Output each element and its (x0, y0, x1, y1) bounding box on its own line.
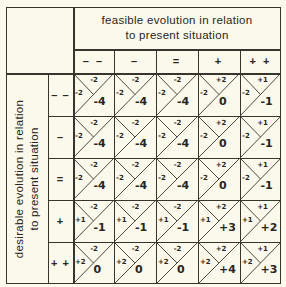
combined-score: -4 (94, 95, 106, 108)
matrix-cell: -2 +1 -1 (73, 200, 114, 242)
matrix-cell: -2 +2 0 (156, 242, 198, 284)
matrix-cell: -2 -2 -4 (73, 116, 114, 158)
column-header: = (156, 49, 198, 73)
row-header: + + (48, 242, 73, 284)
desirable-score: -2 (158, 89, 166, 97)
combined-score: -4 (135, 179, 147, 192)
desirable-score: +1 (75, 216, 86, 224)
feasible-score: -2 (90, 245, 98, 253)
desirable-score: -2 (116, 89, 124, 97)
matrix-cell: +1 +2 +3 (240, 242, 281, 284)
row-header: – (48, 116, 73, 158)
row-title-line-2: to present situation (27, 99, 42, 257)
desirable-score: -2 (158, 132, 166, 140)
desirable-score: +2 (158, 258, 169, 266)
matrix-cell: +2 +1 +3 (198, 200, 240, 242)
combined-score: -1 (177, 221, 189, 234)
desirable-score: -2 (200, 174, 208, 182)
matrix-cell: +1 -2 -1 (240, 73, 281, 116)
matrix-cell: +1 -2 -1 (240, 116, 281, 158)
matrix-cell: +2 +2 +4 (198, 242, 240, 284)
matrix-cell: -2 +1 -1 (156, 200, 198, 242)
feasible-score: -2 (174, 245, 182, 253)
matrix-cell: -2 -2 -4 (114, 116, 156, 158)
desirable-score: +2 (242, 258, 253, 266)
desirable-score: +2 (200, 258, 211, 266)
combined-score: 0 (94, 263, 102, 276)
feasible-score: -2 (132, 161, 140, 169)
combined-score: -1 (261, 179, 273, 192)
combined-score: 0 (177, 263, 185, 276)
desirable-score: -2 (116, 174, 124, 182)
column-header: + (198, 49, 240, 73)
matrix-cell: -2 -2 -4 (156, 116, 198, 158)
matrix-cell: +2 -2 0 (198, 158, 240, 200)
feasible-score: +1 (257, 245, 268, 253)
feasible-score: +2 (216, 245, 227, 253)
combined-score: -1 (135, 221, 147, 234)
desirable-score: -2 (75, 174, 83, 182)
matrix-cell: -2 +2 0 (73, 242, 114, 284)
feasible-score: -2 (90, 161, 98, 169)
matrix-cell: +1 -2 -1 (240, 158, 281, 200)
column-axis-title: feasible evolution in relationto present… (73, 7, 281, 49)
matrix-cell: -2 -2 -4 (156, 158, 198, 200)
desirable-score: -2 (75, 89, 83, 97)
matrix-cell: +2 -2 0 (198, 73, 240, 116)
matrix-cell: -2 -2 -4 (114, 158, 156, 200)
combined-score: +4 (219, 263, 236, 276)
row-header: – – (48, 73, 73, 116)
matrix-cell: -2 -2 -4 (73, 158, 114, 200)
column-header: – – (73, 49, 114, 73)
desirable-score: -2 (242, 132, 250, 140)
row-title-line-1: desirable evolution in relation (12, 99, 27, 257)
combined-score: -4 (177, 179, 189, 192)
feasible-score: +2 (216, 76, 227, 84)
feasible-score: +2 (216, 161, 227, 169)
combined-score: -1 (261, 95, 273, 108)
matrix-cell: +2 -2 0 (198, 116, 240, 158)
desirable-score: +1 (242, 216, 253, 224)
feasible-score: +2 (216, 203, 227, 211)
combined-score: -1 (261, 137, 273, 150)
feasible-score: -2 (132, 203, 140, 211)
matrix-cell: +1 +1 +2 (240, 200, 281, 242)
combined-score: 0 (219, 95, 227, 108)
feasible-score: -2 (90, 203, 98, 211)
matrix-cell: -2 -2 -4 (156, 73, 198, 116)
combined-score: +2 (261, 221, 278, 234)
desirable-score: +1 (200, 216, 211, 224)
feasible-score: -2 (174, 76, 182, 84)
desirable-score: -2 (158, 174, 166, 182)
row-axis-title: desirable evolution in relationto presen… (6, 73, 48, 284)
combined-score: -4 (94, 179, 106, 192)
combined-score: +3 (261, 263, 278, 276)
desirable-score: +1 (116, 216, 127, 224)
feasible-score: +1 (257, 161, 268, 169)
column-title-line-2: to present situation (102, 28, 253, 43)
column-header: – (114, 49, 156, 73)
feasible-score: -2 (132, 119, 140, 127)
feasible-score: +1 (257, 203, 268, 211)
desirable-score: +2 (116, 258, 127, 266)
combined-score: 0 (219, 179, 227, 192)
feasible-score: +1 (257, 119, 268, 127)
combined-score: +3 (219, 221, 236, 234)
desirable-score: -2 (200, 89, 208, 97)
row-header: = (48, 158, 73, 200)
feasible-score: -2 (90, 76, 98, 84)
combined-score: -4 (177, 95, 189, 108)
column-header: + + (240, 49, 281, 73)
combined-score: -4 (135, 137, 147, 150)
feasible-score: -2 (132, 245, 140, 253)
combined-score: -1 (94, 221, 106, 234)
matrix-cell: -2 +1 -1 (114, 200, 156, 242)
matrix-cell: -2 +2 0 (114, 242, 156, 284)
feasible-score: -2 (174, 203, 182, 211)
feasible-score: -2 (90, 119, 98, 127)
desirable-score: -2 (75, 132, 83, 140)
desirable-score: -2 (242, 174, 250, 182)
matrix-cell: -2 -2 -4 (114, 73, 156, 116)
desirable-score: +1 (158, 216, 169, 224)
desirable-score: -2 (200, 132, 208, 140)
